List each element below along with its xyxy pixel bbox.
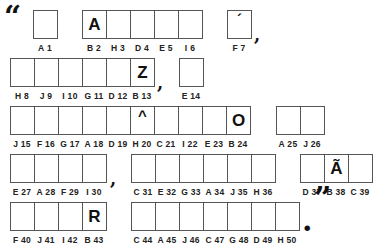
letter-input-box[interactable] — [34, 154, 58, 183]
clue-label: A 18 — [82, 139, 106, 149]
period-after-h50-mark: . — [302, 206, 312, 236]
letter-cell: D 12 — [106, 58, 130, 101]
letter-input-box[interactable] — [227, 154, 251, 183]
letter-cell: C 21 — [154, 106, 178, 149]
letter-input-box[interactable] — [348, 154, 373, 183]
letter-value: R — [88, 207, 100, 227]
letter-cell: J 46 — [179, 202, 203, 245]
comma-after-i30-mark: , — [110, 170, 116, 188]
letter-input-box[interactable] — [82, 154, 107, 183]
letter-input-box[interactable] — [178, 106, 202, 135]
letter-input-box[interactable] — [58, 202, 82, 231]
letter-input-box[interactable] — [10, 202, 34, 231]
clue-label: H 50 — [275, 235, 299, 245]
letter-input-box[interactable]: A — [82, 10, 106, 39]
letter-input-box[interactable] — [300, 106, 325, 135]
accent-mark: ´ — [228, 12, 251, 27]
clue-label: D 4 — [130, 43, 154, 53]
letter-input-box[interactable] — [179, 58, 204, 87]
word-group: A 25J 26 — [276, 106, 324, 149]
letter-input-box[interactable] — [300, 154, 324, 183]
word-group: C 44A 45J 46C 47G 48D 49H 50 — [131, 202, 299, 245]
letter-input-box[interactable] — [131, 202, 155, 231]
clue-label: C 47 — [203, 235, 227, 245]
clue-label: B 24 — [226, 139, 250, 149]
clue-label: J 35 — [227, 187, 251, 197]
clue-label: E 23 — [202, 139, 226, 149]
letter-input-box[interactable]: ^ — [130, 106, 154, 135]
clue-label: J 15 — [10, 139, 34, 149]
clue-label: J 41 — [34, 235, 58, 245]
letter-input-box[interactable] — [203, 202, 227, 231]
letter-input-box[interactable]: ´ — [227, 10, 252, 39]
letter-cell: F 29 — [58, 154, 82, 197]
letter-input-box[interactable] — [82, 58, 106, 87]
letter-cell: I 10 — [58, 58, 82, 101]
letter-input-box[interactable] — [155, 202, 179, 231]
open-quote-mark: “ — [4, 2, 21, 32]
letter-input-box[interactable] — [179, 202, 203, 231]
letter-input-box[interactable] — [10, 154, 34, 183]
letter-input-box[interactable] — [251, 202, 275, 231]
letter-input-box[interactable]: O — [226, 106, 251, 135]
letter-input-box[interactable]: R — [82, 202, 107, 231]
letter-input-box[interactable] — [34, 202, 58, 231]
letter-input-box[interactable] — [34, 58, 58, 87]
clue-label: C 21 — [154, 139, 178, 149]
letter-input-box[interactable] — [106, 10, 130, 39]
clue-label: J 26 — [300, 139, 324, 149]
letter-cell: AB 2 — [82, 10, 106, 53]
clue-label: E 27 — [10, 187, 34, 197]
word-group: AB 2H 3D 4E 5I 6 — [82, 10, 202, 53]
clue-label: H 8 — [10, 91, 34, 101]
letter-cell: C 47 — [203, 202, 227, 245]
letter-input-box[interactable] — [276, 106, 300, 135]
clue-label: I 42 — [58, 235, 82, 245]
letter-input-box[interactable] — [33, 10, 58, 39]
letter-input-box[interactable] — [131, 154, 155, 183]
clue-label: J 46 — [179, 235, 203, 245]
accent-mark: ^ — [131, 108, 154, 123]
letter-cell: C 44 — [131, 202, 155, 245]
letter-cell: G 17 — [58, 106, 82, 149]
word-group: F 40J 41I 42RB 43 — [10, 202, 106, 245]
letter-cell: H 36 — [251, 154, 275, 197]
letter-input-box[interactable] — [179, 154, 203, 183]
letter-input-box[interactable] — [130, 10, 154, 39]
letter-input-box[interactable] — [203, 154, 227, 183]
letter-input-box[interactable] — [10, 106, 34, 135]
clue-label: H 3 — [106, 43, 130, 53]
clue-label: F 40 — [10, 235, 34, 245]
letter-input-box[interactable] — [154, 10, 178, 39]
letter-cell: ^H 20 — [130, 106, 154, 149]
clue-label: F 16 — [34, 139, 58, 149]
letter-input-box[interactable] — [106, 58, 130, 87]
letter-input-box[interactable] — [10, 58, 34, 87]
letter-input-box[interactable]: Ã — [324, 154, 348, 183]
letter-input-box[interactable] — [58, 58, 82, 87]
letter-input-box[interactable] — [106, 106, 130, 135]
letter-input-box[interactable] — [58, 154, 82, 183]
clue-label: D 49 — [251, 235, 275, 245]
letter-input-box[interactable]: Z — [130, 58, 155, 87]
clue-label: G 48 — [227, 235, 251, 245]
letter-cell: E 14 — [179, 58, 203, 101]
letter-input-box[interactable] — [34, 106, 58, 135]
letter-input-box[interactable] — [82, 106, 106, 135]
letter-cell: G 33 — [179, 154, 203, 197]
clue-label: G 11 — [82, 91, 106, 101]
letter-cell: H 8 — [10, 58, 34, 101]
letter-input-box[interactable] — [202, 106, 226, 135]
letter-input-box[interactable] — [251, 154, 276, 183]
word-group: E 14 — [179, 58, 203, 101]
clue-label: A 34 — [203, 187, 227, 197]
letter-input-box[interactable] — [178, 10, 203, 39]
clue-label: A 45 — [155, 235, 179, 245]
clue-label: A 28 — [34, 187, 58, 197]
letter-input-box[interactable] — [227, 202, 251, 231]
letter-input-box[interactable] — [154, 106, 178, 135]
letter-input-box[interactable] — [58, 106, 82, 135]
letter-cell: J 9 — [34, 58, 58, 101]
letter-input-box[interactable] — [275, 202, 300, 231]
letter-input-box[interactable] — [155, 154, 179, 183]
